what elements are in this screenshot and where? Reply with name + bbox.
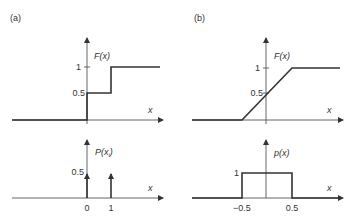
panel-b-label: (b) [194,13,205,23]
y-axis-label: F(x) [274,51,290,61]
ytick-label-0.5: 0.5 [72,88,85,98]
x-axis-label: x [147,183,153,193]
y-axis-label: F(x) [94,51,110,61]
ytick-label-1: 1 [234,168,239,178]
panel-a-cdf-plot: 1 0.5 F(x) x [12,38,163,124]
y-axis-label: p(x) [273,148,290,158]
panel-b-pdf-plot: 1 p(x) x −0.5 0.5 [192,140,343,213]
x-axis-label: x [326,183,332,193]
panel-a-label: (a) [10,13,21,23]
cdf-step-curve [12,67,160,120]
x-axis-label: x [147,105,153,115]
xtick-label-1: 1 [108,203,113,213]
xtick-label-0.5: 0.5 [286,203,299,213]
ytick-label-0.5: 0.5 [71,167,84,177]
panel-a: (a) 1 0.5 F(x) x 0.5 P(xi) x 0 1 [10,13,163,213]
ytick-label-0.5: 0.5 [250,88,263,98]
panel-b: (b) 1 0.5 F(x) x 1 p(x) x −0.5 0.5 [192,13,343,213]
xtick-label-0: 0 [84,203,89,213]
x-axis-label: x [326,105,332,115]
panel-b-cdf-plot: 1 0.5 F(x) x [192,38,343,124]
ytick-label-1: 1 [255,63,260,73]
panel-a-pmf-plot: 0.5 P(xi) x 0 1 [12,140,163,213]
y-axis-label: P(xi) [95,147,113,158]
ytick-label-1: 1 [76,62,81,72]
xtick-label-neg-0.5: −0.5 [233,203,251,213]
figure-canvas: (a) 1 0.5 F(x) x 0.5 P(xi) x 0 1 (b) [0,0,355,220]
